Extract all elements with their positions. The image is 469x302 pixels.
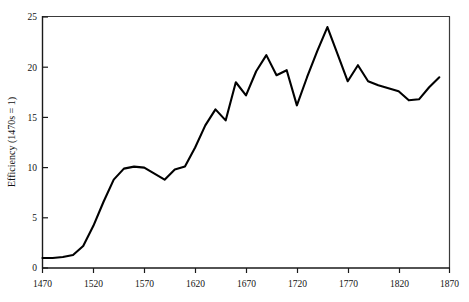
- y-axis-tick-labels: 0 5 10 15 20 25: [28, 12, 38, 273]
- x-tick-label-1770: 1770: [339, 279, 358, 289]
- x-tick-label-1570: 1570: [135, 279, 154, 289]
- x-tick-label-1520: 1520: [84, 279, 103, 289]
- line-chart: 0 5 10 15 20 25 1470 1520 1570 1620 1670: [0, 0, 469, 302]
- y-tick-label-20: 20: [28, 63, 38, 73]
- y-tick-label-25: 25: [28, 12, 38, 22]
- y-axis-ticks: [43, 17, 49, 268]
- plot-frame: [42, 16, 450, 269]
- y-tick-label-0: 0: [32, 263, 37, 273]
- x-tick-label-1470: 1470: [33, 279, 52, 289]
- chart-container: 0 5 10 15 20 25 1470 1520 1570 1620 1670: [0, 0, 469, 302]
- x-axis-ticks: [43, 268, 450, 273]
- y-tick-label-5: 5: [32, 213, 37, 223]
- x-tick-label-1620: 1620: [186, 279, 205, 289]
- x-tick-label-1870: 1870: [440, 279, 459, 289]
- y-axis-title: Efficiency (1470s = 1): [6, 97, 18, 187]
- data-series-line: [43, 27, 440, 258]
- y-tick-label-10: 10: [28, 163, 38, 173]
- x-tick-label-1670: 1670: [237, 279, 256, 289]
- x-axis-tick-labels: 1470 1520 1570 1620 1670 1720 1770 1820 …: [33, 279, 459, 289]
- x-tick-label-1720: 1720: [288, 279, 307, 289]
- y-tick-label-15: 15: [28, 113, 38, 123]
- x-tick-label-1820: 1820: [390, 279, 409, 289]
